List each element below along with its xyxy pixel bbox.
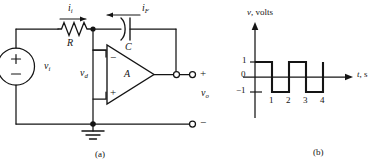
circuit-diagram [0, 12, 196, 139]
output-terminal-minus [190, 121, 196, 127]
opamp-gain-label: A [124, 69, 130, 79]
resistor-symbol [58, 23, 93, 36]
caption-a: (a) [95, 150, 105, 159]
plot-xtick-label-1: 1 [269, 96, 274, 105]
differential-voltage-label: vd [80, 68, 88, 80]
input-current-label: ii [68, 3, 73, 15]
output-minus-sign: − [200, 117, 206, 128]
output-voltage-label: vo [201, 88, 209, 100]
source-voltage-label: vi [44, 61, 50, 73]
opamp-inverting-sign: − [110, 52, 116, 63]
plot-x-axis-label: t, s [357, 70, 368, 79]
feedback-current-label: iF [142, 3, 149, 15]
wire-to-noninverting-input [93, 92, 106, 99]
wire-to-inverting-input [93, 50, 106, 57]
feedback-current-arrowhead [107, 12, 113, 17]
output-terminal-plus [190, 72, 196, 78]
caption-b: (b) [313, 148, 324, 157]
output-plus-sign: + [200, 68, 206, 79]
waveform-plot [243, 22, 353, 118]
plot-xtick-label-3: 3 [303, 96, 308, 105]
plot-ytick-label-0: 0 [241, 70, 246, 79]
input-current-arrowhead [80, 16, 86, 21]
capacitor-label: C [125, 42, 132, 52]
plot-y-axis-label: v, volts [247, 8, 273, 17]
opamp-noninverting-sign: + [110, 87, 116, 98]
plot-y-axis-arrowhead [252, 22, 259, 30]
plot-xtick-label-4: 4 [320, 96, 325, 105]
plot-ytick-label-1: 1 [242, 56, 247, 65]
voltage-source-symbol [0, 48, 35, 85]
figure-canvas [0, 0, 383, 167]
plot-ytick-label-neg1: −1 [236, 86, 246, 95]
source-plus-icon [12, 55, 21, 64]
plot-xtick-label-2: 2 [286, 96, 291, 105]
output-terminal-node [174, 72, 180, 78]
resistor-label: R [67, 38, 73, 48]
plot-x-axis-arrowhead [345, 74, 353, 81]
